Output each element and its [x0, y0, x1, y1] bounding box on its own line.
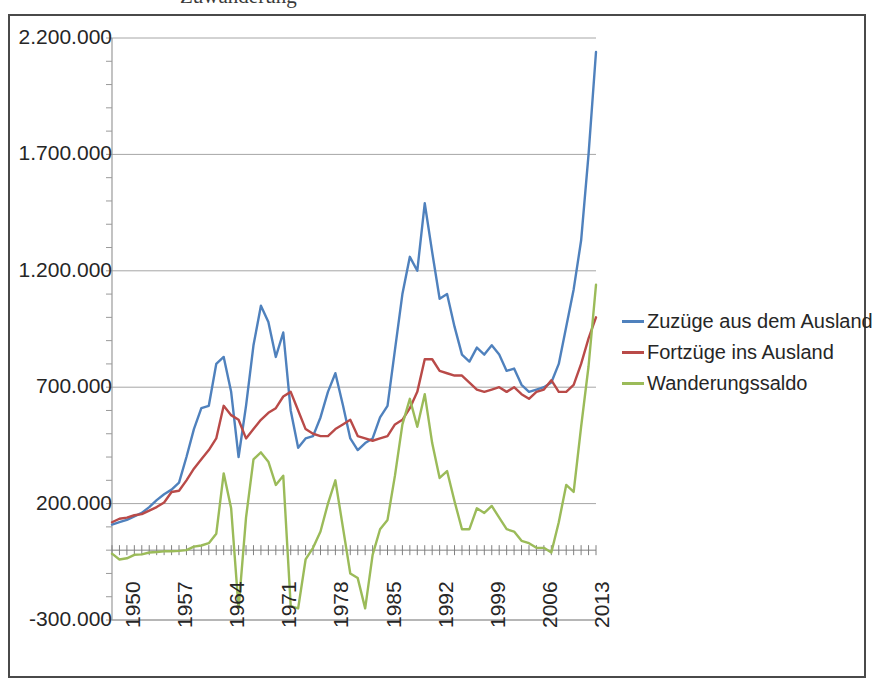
x-axis-tick-label: 2006	[538, 581, 562, 628]
chart-container: 2.200.0001.700.0001.200.000700.000200.00…	[8, 14, 866, 678]
x-axis-tick-label: 2013	[590, 581, 614, 628]
legend-item-3[interactable]: Wanderungssaldo	[622, 368, 866, 399]
x-axis-tick-label: 1992	[434, 581, 458, 628]
x-axis-tick-label: 1950	[121, 581, 145, 628]
x-axis-tick-label: 1985	[382, 581, 406, 628]
x-axis-tick-label: 1957	[173, 581, 197, 628]
legend-item-1[interactable]: Zuzüge aus dem Ausland	[622, 306, 866, 337]
legend-label: Fortzüge ins Ausland	[647, 341, 834, 364]
legend-label: Wanderungssaldo	[647, 372, 807, 395]
x-axis-tick-label: 1978	[329, 581, 353, 628]
legend-color-swatch	[622, 382, 644, 385]
legend-color-swatch	[622, 320, 644, 323]
chart-title-partial: Zuwanderung	[0, 0, 878, 14]
legend-label: Zuzüge aus dem Ausland	[647, 310, 873, 333]
x-axis-tick-label: 1964	[225, 581, 249, 628]
x-axis-tick-label: 1971	[277, 581, 301, 628]
x-axis-tick-label: 1999	[486, 581, 510, 628]
legend-item-2[interactable]: Fortzüge ins Ausland	[622, 337, 866, 368]
chart-legend: Zuzüge aus dem AuslandFortzüge ins Ausla…	[622, 306, 866, 399]
legend-color-swatch	[622, 351, 644, 354]
chart-title-text: Zuwanderung	[180, 0, 297, 9]
